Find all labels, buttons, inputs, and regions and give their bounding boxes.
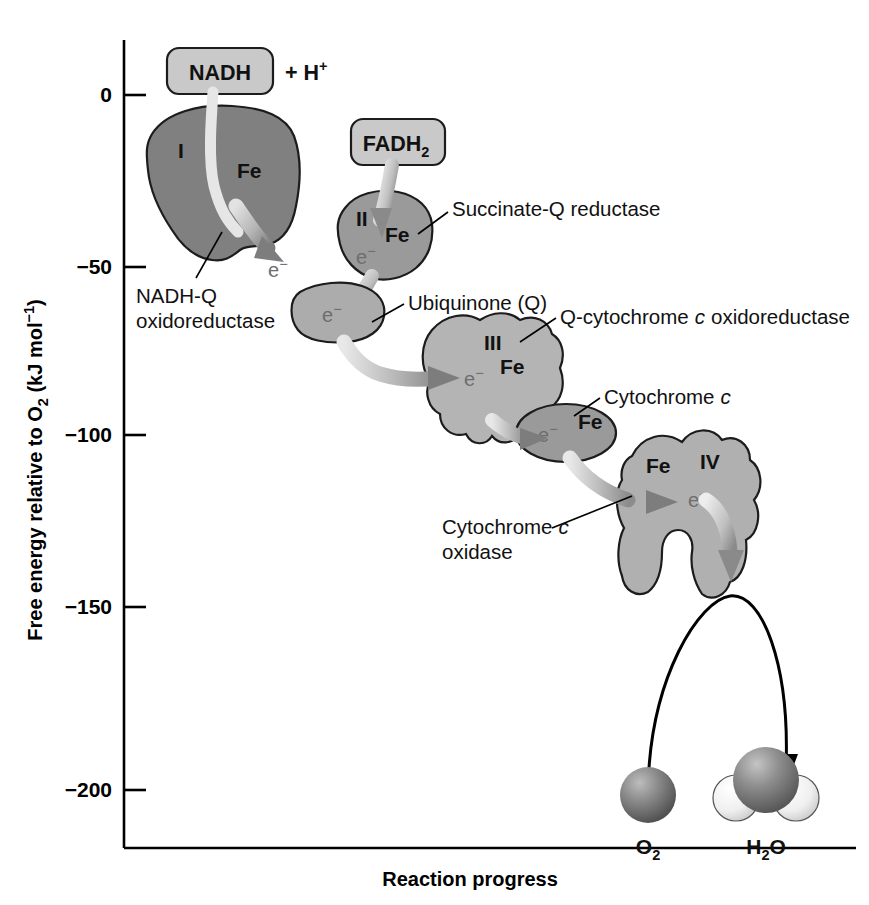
o2-label: O2 (636, 835, 660, 863)
q-cyt-c-italic: c (695, 305, 706, 328)
ubiquinone: e− (292, 283, 385, 343)
complex-ii-fe: Fe (385, 223, 410, 246)
cyt-c-oxidase-italic: c (559, 515, 570, 538)
fadh2-text: FADH (363, 132, 422, 156)
h2o-o: O (769, 835, 785, 858)
electron-minus-5: − (549, 421, 557, 437)
o2-sphere (620, 767, 676, 823)
fadh2-sub: 2 (421, 144, 429, 160)
y-axis-title-suffix: ) (24, 299, 46, 306)
figure-canvas: 0 −50 −100 −150 −200 Free energy relativ… (0, 0, 869, 905)
q-cyt-c-post: oxidoreductase (711, 305, 850, 328)
electron-label-complex-i: e− (268, 256, 288, 281)
electron-minus-3: − (333, 301, 341, 317)
h2o-oxygen (733, 747, 799, 813)
x-axis-title: Reaction progress (382, 868, 558, 890)
y-tick-label-minus100: −100 (65, 423, 112, 446)
fadh2-box: FADH2 (351, 119, 445, 165)
o2-sub: 2 (652, 847, 660, 863)
h2o-molecule: H2O (713, 747, 819, 863)
cyt-c-oxidase-pre: Cytochrome (442, 515, 553, 538)
energy-profile-svg: 0 −50 −100 −150 −200 Free energy relativ… (0, 0, 869, 905)
complex-iii-fe: Fe (500, 355, 525, 378)
o2-text: O (636, 835, 652, 858)
cyt-c-italic: c (721, 385, 732, 408)
nadh-suffix-sup: + (319, 58, 327, 74)
y-axis-title-sup: −1 (21, 306, 37, 323)
label-ubiquinone: Ubiquinone (Q) (408, 291, 547, 314)
electron-minus-1: − (279, 256, 287, 272)
complex-iv-roman: IV (700, 450, 720, 473)
electron-e-4: e (464, 368, 475, 390)
label-cytochrome-c: Cytochromec (604, 385, 732, 408)
h2o-h: H (746, 835, 761, 858)
cyt-c-pre: Cytochrome (604, 385, 715, 408)
electron-e-6: e (688, 489, 699, 511)
complex-iv: Fe IV e− (617, 430, 760, 597)
y-tick-label-minus200: −200 (65, 778, 112, 801)
y-tick-label-minus150: −150 (65, 595, 112, 618)
nadh-label: NADH (189, 61, 251, 85)
label-nadh-q-oxidoreductase-line2: oxidoreductase (136, 309, 275, 332)
cytochrome-c-fe: Fe (578, 410, 603, 433)
fadh2-label: FADH2 (363, 132, 430, 160)
complex-iii-roman: III (484, 331, 502, 354)
complex-i-fe: Fe (237, 159, 262, 182)
nadh-box: NADH + H+ (167, 48, 328, 94)
y-axis-title-sub: 2 (35, 398, 51, 406)
label-q-cyt-c-oxidoreductase: Q-cytochromecoxidoreductase (560, 305, 850, 328)
complex-ii-roman: II (356, 207, 368, 230)
label-cyt-c-oxidase-line2: oxidase (442, 540, 513, 563)
complex-i-roman: I (178, 139, 184, 162)
complex-iv-fe: Fe (646, 454, 671, 477)
y-axis-title-mid: (kJ mol (24, 323, 46, 399)
nadh-plus-h-label: + H+ (285, 58, 328, 85)
nadh-suffix: + H (285, 61, 319, 85)
q-cyt-c-pre: Q-cytochrome (560, 305, 689, 328)
complex-i: I Fe (147, 106, 300, 261)
electron-e-3: e (322, 304, 333, 326)
label-cyt-c-oxidase-line1: Cytochromec (442, 515, 570, 538)
h2o-label: H2O (746, 835, 786, 863)
complex-iv-shape (617, 430, 760, 597)
label-nadh-q-oxidoreductase-line1: NADH-Q (136, 284, 217, 307)
electron-e-2: e (356, 246, 367, 268)
complex-i-shape (147, 106, 300, 261)
y-axis-title-prefix: Free energy relative to O (24, 406, 46, 641)
y-tick-label-minus50: −50 (76, 255, 112, 278)
svg-text:Free energy relative to O2 (kJ: Free energy relative to O2 (kJ mol−1) (21, 299, 51, 640)
electron-e-5: e (538, 424, 549, 446)
y-axis-title: Free energy relative to O2 (kJ mol−1) (21, 299, 51, 640)
y-tick-label-0: 0 (100, 83, 112, 106)
electron-minus-2: − (367, 243, 375, 259)
h2o-sub: 2 (761, 847, 769, 863)
electron-minus-4: − (475, 365, 483, 381)
electron-e-1: e (268, 259, 279, 281)
label-succinate-q-reductase: Succinate-Q reductase (452, 197, 661, 220)
